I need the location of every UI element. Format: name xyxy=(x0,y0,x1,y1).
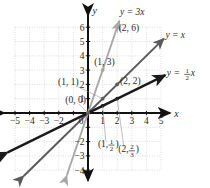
svg-text:2: 2 xyxy=(110,145,114,152)
annotation-pt-1-3: (1, 3) xyxy=(94,57,115,68)
ytick-6: 6 xyxy=(80,23,85,33)
y-axis-label: y xyxy=(92,5,98,16)
annotation-pt-2-6: (2, 6) xyxy=(119,23,140,34)
svg-text:1: 1 xyxy=(186,67,190,74)
svg-text:(2, 6): (2, 6) xyxy=(119,23,140,34)
ytick-−4: −4 xyxy=(74,166,84,176)
svg-text:3: 3 xyxy=(130,151,134,158)
ytick-−2: −2 xyxy=(74,137,84,147)
svg-text:2: 2 xyxy=(186,74,190,81)
svg-text:1: 1 xyxy=(110,138,114,145)
coordinate-plane-svg: −5−4−3−2012345654321−2−3−4 (0, 0)(1, 1)(… xyxy=(0,0,210,188)
label-y-x: y = x xyxy=(164,30,185,40)
svg-text:): ) xyxy=(136,144,139,155)
svg-text:(2, 2): (2, 2) xyxy=(120,76,141,87)
svg-text:y =: y = xyxy=(166,68,180,78)
ytick-4: 4 xyxy=(80,51,85,61)
xtick-1: 1 xyxy=(100,116,105,126)
svg-text:(1,: (1, xyxy=(98,139,108,150)
graph-figure: −5−4−3−2012345654321−2−3−4 (0, 0)(1, 1)(… xyxy=(0,0,210,188)
svg-text:x: x xyxy=(190,68,196,78)
svg-text:(0, 0): (0, 0) xyxy=(65,95,86,106)
svg-text:(1, 1): (1, 1) xyxy=(58,77,79,88)
annotation-pt-0-0: (0, 0) xyxy=(65,95,86,106)
annotation-pt-2-2: (2, 2) xyxy=(120,76,141,87)
figure-background xyxy=(0,0,210,188)
x-axis-label: x xyxy=(173,108,179,119)
svg-text:(2,: (2, xyxy=(118,144,128,155)
svg-text:2: 2 xyxy=(130,143,134,150)
xtick-0: 0 xyxy=(79,116,84,126)
annotation-pt-1-1: (1, 1) xyxy=(58,77,79,88)
xtick-5: 5 xyxy=(159,116,164,126)
svg-text:(1, 3): (1, 3) xyxy=(94,57,115,68)
svg-text:y = 3x: y = 3x xyxy=(119,7,145,17)
ytick-3: 3 xyxy=(80,66,85,76)
ytick-−3: −3 xyxy=(74,151,84,161)
xtick-−2: −2 xyxy=(54,116,64,126)
ytick-5: 5 xyxy=(80,37,85,47)
xtick-−4: −4 xyxy=(25,116,35,126)
xtick-3: 3 xyxy=(129,116,134,126)
xtick-−3: −3 xyxy=(39,116,49,126)
label-y-3x: y = 3x xyxy=(119,7,145,17)
xtick-4: 4 xyxy=(144,116,149,126)
xtick-−5: −5 xyxy=(10,116,20,126)
svg-text:y = x: y = x xyxy=(164,30,185,40)
ytick-2: 2 xyxy=(80,80,85,90)
xtick-2: 2 xyxy=(115,116,120,126)
